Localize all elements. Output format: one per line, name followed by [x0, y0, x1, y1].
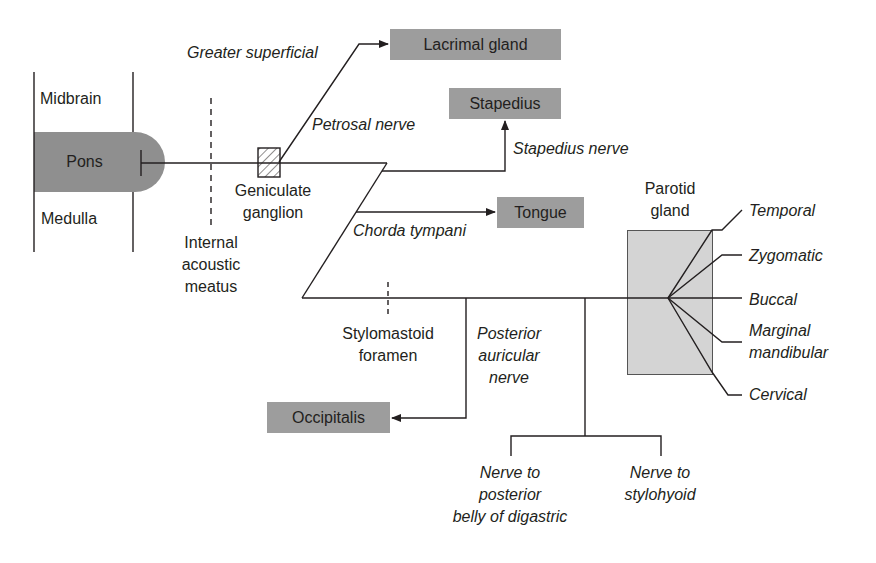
cervical-branch-label: Cervical [749, 384, 807, 406]
marginal-mandibular-label: Marginal mandibular [749, 320, 828, 364]
midbrain-label: Midbrain [40, 88, 101, 110]
zygomatic-branch-label: Zygomatic [749, 245, 823, 267]
stylomastoid-foramen-label: Stylomastoid foramen [326, 323, 450, 367]
posterior-auricular-nerve-label: Posterior auricular nerve [470, 323, 548, 389]
greater-superficial-label: Greater superficial [187, 42, 318, 64]
geniculate-ganglion-box [258, 148, 280, 177]
geniculate-ganglion-label: Geniculate ganglion [225, 180, 321, 224]
temporal-branch-label: Temporal [749, 200, 815, 222]
stapedius-nerve-label: Stapedius nerve [513, 138, 629, 160]
parotid-gland-label: Parotid gland [630, 178, 710, 222]
nerve-pathway-lines [0, 0, 876, 563]
internal-acoustic-meatus-label: Internal acoustic meatus [171, 232, 251, 298]
chorda-tympani-label: Chorda tympani [353, 220, 466, 242]
medulla-label: Medulla [41, 208, 97, 230]
petrosal-nerve-label: Petrosal nerve [312, 114, 415, 136]
buccal-branch-label: Buccal [749, 289, 797, 311]
nerve-to-digastric-label: Nerve to posterior belly of digastric [440, 462, 580, 528]
nerve-to-stylohyoid-label: Nerve to stylohyoid [615, 462, 705, 506]
